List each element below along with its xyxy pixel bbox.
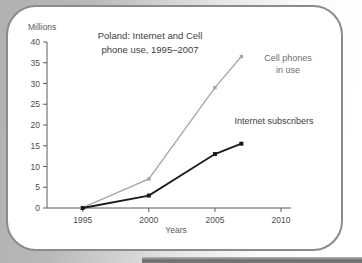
- page-bottom-rule: [142, 257, 362, 263]
- y-tick-label: 35: [31, 58, 41, 68]
- x-tick-label: 1995: [73, 215, 92, 225]
- series-label-internet-subscribers: Internet subscribers: [216, 115, 332, 127]
- chart-figure-box: 05101520253035401995200020052010 Million…: [6, 5, 343, 251]
- x-tick-label: 2000: [139, 215, 158, 225]
- series-label-cell-phones: Cell phones in use: [236, 52, 340, 76]
- series-line-cell-phones: [83, 57, 242, 208]
- series-point-cell-phones: [147, 177, 150, 180]
- series-label-internet-subscribers-line-1: Internet subscribers: [216, 115, 332, 127]
- series-point-internet-subscribers: [147, 194, 151, 198]
- series-label-cell-phones-line-1: Cell phones: [236, 52, 340, 64]
- y-tick-label: 25: [31, 99, 41, 109]
- y-tick-label: 10: [31, 162, 41, 172]
- series-line-internet-subscribers: [83, 144, 242, 208]
- y-tick-label: 5: [35, 182, 40, 192]
- y-tick-label: 0: [35, 203, 40, 213]
- series-label-cell-phones-line-2: in use: [236, 64, 340, 76]
- series-point-internet-subscribers: [239, 142, 243, 146]
- series-point-internet-subscribers: [81, 206, 85, 210]
- y-axis-unit-label: Millions: [28, 22, 56, 32]
- y-tick-label: 40: [31, 37, 41, 47]
- y-tick-label: 15: [31, 141, 41, 151]
- series-point-internet-subscribers: [213, 152, 217, 156]
- y-tick-label: 30: [31, 79, 41, 89]
- scanned-page-background: 05101520253035401995200020052010 Million…: [0, 0, 362, 263]
- series-point-cell-phones: [213, 86, 216, 89]
- x-tick-label: 2010: [272, 215, 291, 225]
- x-tick-label: 2005: [205, 215, 224, 225]
- chart-title-line-1: Poland: Internet and Cell: [60, 29, 240, 43]
- chart-title-line-2: phone use, 1995–2007: [60, 43, 240, 57]
- y-tick-label: 20: [31, 120, 41, 130]
- x-axis-title: Years: [126, 225, 226, 235]
- chart-title: Poland: Internet and Cell phone use, 199…: [60, 29, 240, 58]
